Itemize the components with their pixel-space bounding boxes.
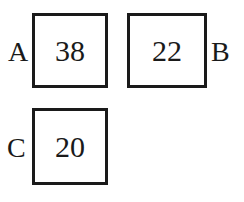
- box-c: 20: [32, 108, 108, 185]
- box-b-label: B: [211, 38, 230, 66]
- box-a-value: 38: [55, 36, 85, 66]
- box-c-label: C: [7, 134, 26, 162]
- box-a: 38: [32, 13, 108, 88]
- box-b: 22: [127, 13, 207, 88]
- box-a-label: A: [8, 38, 28, 66]
- box-c-value: 20: [55, 132, 85, 162]
- box-b-value: 22: [152, 36, 182, 66]
